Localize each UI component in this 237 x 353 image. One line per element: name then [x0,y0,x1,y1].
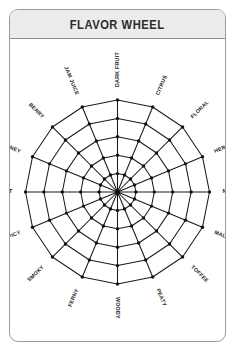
radar-axis-label: SWEET [10,188,13,194]
radar-hub [115,189,120,194]
radar-point [181,255,184,258]
radar-point [155,151,158,154]
radar-point [151,275,154,278]
radar-point [51,255,54,258]
radar-point [116,209,119,212]
radar-point [133,183,136,186]
radar-point [129,177,132,180]
radar-point [88,122,91,125]
radar-point [155,229,158,232]
radar-point [99,197,102,200]
radar-point [168,138,171,141]
radar-point [137,241,140,244]
radar-point [151,105,154,108]
radar-point [168,242,171,245]
radar-point [130,156,133,159]
radar-point [48,218,51,221]
radar-point [208,190,211,193]
card-header: FLAVOR WHEEL [10,10,225,39]
radar-point [81,275,84,278]
radar-point [90,216,93,219]
radar-point [150,176,153,179]
radar-point [77,151,80,154]
radar-point [201,226,204,229]
radar-point [123,173,126,176]
radar-point [90,164,93,167]
radar-point [142,164,145,167]
radar-axis-label: SPICY [10,229,22,241]
radar-point [109,207,112,210]
radar-point [184,162,187,165]
radar-spoke [118,192,183,257]
radar-point [81,105,84,108]
radar-point [31,155,34,158]
radar-point [64,242,67,245]
radar-point [137,139,140,142]
radar-axis-label: HERBAL [213,139,225,154]
radar-point [123,207,126,210]
radar-point [144,122,147,125]
radar-point [95,139,98,142]
radar-spoke [52,127,117,192]
radar-point [88,258,91,261]
radar-point [116,227,119,230]
radar-point [103,177,106,180]
radar-center-point [115,189,120,194]
radar-axis-label: CITRUS [154,74,168,96]
radar-point [129,203,132,206]
radar-point [116,172,119,175]
radar-point [134,190,137,193]
radar-axis-label: WOODY [115,297,121,319]
radar-point [42,190,45,193]
radar-point [181,125,184,128]
radar-point [65,211,68,214]
radar-point [116,264,119,267]
radar-axis-label: FLORAL [189,99,210,120]
radar-point [116,154,119,157]
radar-point [171,190,174,193]
radar-point [82,204,85,207]
radar-axis-label: DARK FRUIT [114,52,120,87]
radar-axis-label: NUTTY [223,188,226,194]
radar-spoke [52,192,117,257]
radar-point [116,135,119,138]
radar-axis-label: WINEY [10,141,22,154]
radar-spoke [118,127,183,192]
radar-chart: DARK FRUITCITRUSFLORALHERBALNUTTYMALTYTO… [10,39,225,342]
radar-point [102,224,105,227]
radar-point [116,246,119,249]
radar-point [102,156,105,159]
radar-point [116,282,119,285]
radar-point [51,125,54,128]
flavor-wheel-card: FLAVOR WHEEL DARK FRUITCITRUSFLORALHERBA… [9,9,226,342]
radar-axis-label: BERRY [28,101,46,119]
radar-point [116,98,119,101]
radar-axis-label: PEATY [155,288,168,308]
radar-point [61,190,64,193]
radar-point [31,226,34,229]
radar-point [133,197,136,200]
radar-point [150,204,153,207]
radar-point [103,203,106,206]
radar-point [153,190,156,193]
radar-axis-label: FERNY [67,287,80,307]
radar-axis-label: TOFFEE [190,264,210,284]
radar-point [95,241,98,244]
card-body: DARK FRUITCITRUSFLORALHERBALNUTTYMALTYTO… [10,39,225,342]
radar-chart-svg: DARK FRUITCITRUSFLORALHERBALNUTTYMALTYTO… [10,39,225,342]
radar-point [130,224,133,227]
page-title: FLAVOR WHEEL [70,17,165,32]
radar-point [77,229,80,232]
radar-point [65,169,68,172]
radar-point [97,190,100,193]
radar-point [48,162,51,165]
radar-point [189,190,192,193]
radar-point [109,173,112,176]
radar-axis-label: JAM JUICE [63,65,80,96]
radar-point [24,190,27,193]
radar-point [144,258,147,261]
radar-point [167,211,170,214]
radar-point [167,169,170,172]
radar-point [82,176,85,179]
radar-point [64,138,67,141]
